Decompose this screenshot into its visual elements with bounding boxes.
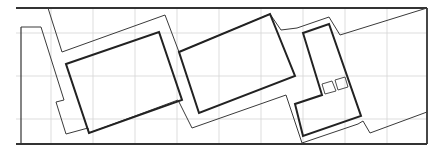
site-boundaries xyxy=(21,8,427,143)
buildings xyxy=(66,14,361,136)
square-2 xyxy=(335,77,348,90)
square-1 xyxy=(322,81,336,94)
site-boundary-upper xyxy=(48,8,427,52)
grid-lines xyxy=(16,8,427,144)
building-left xyxy=(66,32,182,133)
small-squares xyxy=(322,77,348,94)
site-plan-svg xyxy=(0,0,433,153)
site-plan-diagram xyxy=(0,0,433,153)
